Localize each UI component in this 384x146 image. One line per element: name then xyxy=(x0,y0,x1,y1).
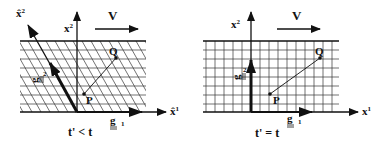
right-p-label: P xyxy=(273,94,280,106)
left-x2hat-label: x̂2 xyxy=(16,7,26,19)
right-q-label: Q xyxy=(315,45,324,57)
right-panel: x2 x1 V Q P g 2 g 1 t' = t xyxy=(203,8,372,140)
svg-text:g: g xyxy=(28,77,40,83)
svg-text:g: g xyxy=(110,114,116,126)
svg-text:1: 1 xyxy=(121,120,125,128)
left-q-label: Q xyxy=(109,45,118,57)
right-g2-sub: 2 xyxy=(243,66,247,74)
left-velocity-label: V xyxy=(108,8,118,23)
left-p-label: P xyxy=(86,94,93,106)
right-pq-segment xyxy=(270,58,320,94)
svg-text:g: g xyxy=(230,74,242,80)
left-g2-sub: 2 xyxy=(43,70,47,78)
right-velocity-label: V xyxy=(292,8,302,23)
left-panel: x̂2 x2 x̂1 V Q P g 2 g 1 t' < t xyxy=(0,7,185,139)
svg-text:g: g xyxy=(287,112,293,124)
right-x2-label: x2 xyxy=(231,18,241,30)
right-g1-label: g 1 xyxy=(287,112,302,127)
svg-text:1: 1 xyxy=(298,118,302,126)
right-caption: t' = t xyxy=(255,126,279,140)
right-x1-label: x1 xyxy=(362,105,372,117)
left-x2-label: x2 xyxy=(64,22,74,34)
right-g2-label: g xyxy=(230,73,245,80)
diagram-canvas: x̂2 x2 x̂1 V Q P g 2 g 1 t' < t xyxy=(0,0,384,146)
left-caption: t' < t xyxy=(68,125,92,139)
left-x1hat-label: x̂1 xyxy=(170,105,180,117)
right-point-p xyxy=(268,92,272,96)
left-g1-label: g 1 xyxy=(110,114,125,129)
